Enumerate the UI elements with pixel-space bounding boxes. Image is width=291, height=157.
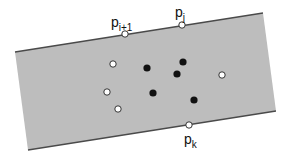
filled-point	[173, 70, 180, 77]
point-label: pi+1	[111, 14, 133, 33]
filled-point	[179, 58, 186, 65]
filled-point	[149, 89, 156, 96]
point-label: pk	[184, 131, 198, 150]
open-point	[110, 61, 116, 67]
point-label: pj	[175, 4, 185, 23]
filled-point	[143, 64, 150, 71]
open-point	[219, 72, 225, 78]
filled-point	[190, 96, 197, 103]
strip-region	[15, 13, 276, 150]
strip-diagram: pi+1pjpk	[0, 0, 291, 157]
open-point	[115, 106, 121, 112]
open-point	[104, 89, 110, 95]
labeled-point-p-k	[186, 122, 192, 128]
